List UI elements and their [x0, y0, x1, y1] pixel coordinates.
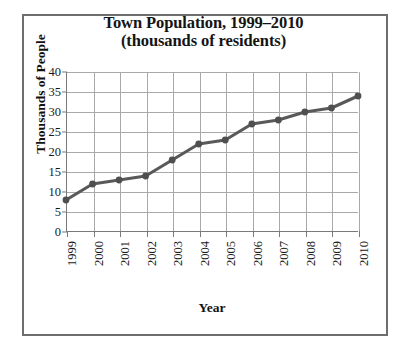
line-series-svg: 1999: 82000: 122001: 132002: 142003: 182… [66, 72, 358, 232]
series-line [66, 96, 358, 200]
data-point-marker: 2008: 30 [302, 109, 309, 116]
data-point-marker: 1999: 8 [63, 197, 70, 204]
x-tick-label: 2002 [144, 241, 159, 266]
x-tick-label: 2009 [330, 241, 345, 266]
data-point-marker: 2007: 28 [275, 117, 282, 124]
x-tick-mark [359, 231, 360, 237]
y-tick-label: 40 [49, 65, 62, 80]
chart-title-block: Town Population, 1999–2010 (thousands of… [0, 14, 407, 51]
x-tick-label: 2006 [250, 241, 265, 266]
x-tick-label: 2003 [171, 241, 186, 266]
y-tick-label: 35 [49, 85, 62, 100]
x-tick-label: 2000 [91, 241, 106, 266]
x-axis-title: Year [66, 300, 358, 316]
data-point-marker: 2006: 27 [248, 121, 255, 128]
data-point-marker: 2005: 23 [222, 137, 229, 144]
y-tick-label: 25 [49, 125, 62, 140]
x-tick-label: 2007 [277, 241, 292, 266]
plot-area: 0510152025303540199920002001200220032004… [66, 72, 358, 232]
y-axis-title: Thousands of People [33, 9, 49, 179]
data-point-marker: 2002: 14 [142, 173, 149, 180]
y-tick-label: 5 [55, 205, 61, 220]
data-point-marker: 2010: 34 [355, 93, 362, 100]
x-tick-label: 2010 [357, 241, 372, 266]
x-tick-label: 1999 [65, 241, 80, 266]
x-tick-label: 2001 [118, 241, 133, 266]
data-point-marker: 2004: 22 [195, 141, 202, 148]
chart-title: Town Population, 1999–2010 [0, 14, 407, 32]
y-tick-label: 15 [49, 165, 62, 180]
data-point-marker: 2003: 18 [169, 157, 176, 164]
x-tick-label: 2008 [303, 241, 318, 266]
y-tick-label: 20 [49, 145, 62, 160]
y-tick-label: 10 [49, 185, 62, 200]
y-tick-label: 0 [55, 225, 61, 240]
screenshot-root: Town Population, 1999–2010 (thousands of… [0, 0, 407, 354]
chart-subtitle: (thousands of residents) [0, 32, 407, 50]
data-point-marker: 2000: 12 [89, 181, 96, 188]
data-point-marker: 2009: 31 [328, 105, 335, 112]
x-tick-label: 2004 [197, 241, 212, 266]
x-tick-label: 2005 [224, 241, 239, 266]
data-point-marker: 2001: 13 [116, 177, 123, 184]
y-tick-label: 30 [49, 105, 62, 120]
